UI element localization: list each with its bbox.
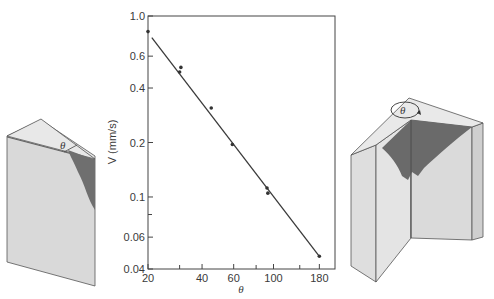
x-tick-label: 180 <box>310 272 328 284</box>
y-tick-label: 1.0 <box>130 10 145 22</box>
y-tick-label: 0.06 <box>124 231 145 243</box>
chart: 204060100180 0.040.060.10.20.40.61.0 θ V… <box>106 10 335 295</box>
wedge-illustration: θ <box>7 119 95 286</box>
y-axis-title: V (mm/s) <box>106 120 118 165</box>
corner-theta-label: θ <box>400 104 406 116</box>
y-tick-label: 0.2 <box>130 137 145 149</box>
data-point <box>178 70 182 74</box>
data-point <box>209 106 213 110</box>
x-axis-title: θ <box>238 283 244 295</box>
data-point <box>231 143 235 147</box>
figure-canvas: θ θ 204060100180 0.040.060.10.20.40.61.0… <box>0 0 494 299</box>
plot-frame <box>148 16 335 269</box>
wedge-theta-label: θ <box>60 139 66 151</box>
data-point <box>266 191 270 195</box>
fit-line <box>152 38 320 257</box>
data-point <box>179 66 183 70</box>
y-tick-label: 0.1 <box>130 191 145 203</box>
y-tick-label: 0.6 <box>130 50 145 62</box>
data-point <box>318 255 322 259</box>
x-tick-label: 40 <box>196 272 208 284</box>
data-point <box>265 186 269 190</box>
data-point <box>146 30 150 34</box>
fit-line-group <box>152 38 320 257</box>
y-axis: 0.040.060.10.20.40.61.0 <box>124 10 153 275</box>
y-tick-label: 0.04 <box>124 263 145 275</box>
x-tick-label: 100 <box>264 272 282 284</box>
x-axis: 204060100180 <box>142 264 329 284</box>
corner-illustration: θ <box>351 98 483 282</box>
y-tick-label: 0.4 <box>130 82 145 94</box>
